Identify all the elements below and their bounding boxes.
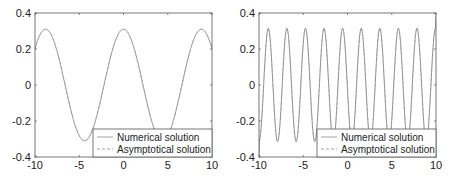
numerical-solution-line [35, 29, 212, 141]
y-tick-label: 0.2 [16, 43, 31, 55]
x-tick-label: 0 [344, 159, 350, 171]
y-tick-label: 0.4 [16, 7, 31, 19]
y-tick-label: -0.4 [236, 151, 255, 163]
y-tick-label: -0.2 [236, 115, 255, 127]
figure: -10-50510-0.4-0.200.20.4Numerical soluti… [0, 0, 455, 183]
legend-label-numerical: Numerical solution [341, 132, 423, 143]
y-tick-label: 0.4 [240, 7, 255, 19]
legend-label-asymptotical: Asymptotical solution [341, 144, 435, 155]
asymptotical-solution-line [35, 29, 212, 141]
x-tick-label: -5 [298, 159, 308, 171]
legend-label-numerical: Numerical solution [117, 132, 199, 143]
left-chart-panel: -10-50510-0.4-0.200.20.4Numerical soluti… [12, 7, 218, 171]
y-tick-label: -0.4 [12, 151, 31, 163]
x-tick-label: 5 [389, 159, 395, 171]
legend: Numerical solutionAsymptotical solution [93, 129, 212, 157]
y-tick-label: 0 [25, 79, 31, 91]
y-tick-label: -0.2 [12, 115, 31, 127]
y-tick-label: 0 [249, 79, 255, 91]
legend-label-asymptotical: Asymptotical solution [117, 144, 211, 155]
right-chart-panel: -10-50510-0.4-0.200.20.4Numerical soluti… [236, 7, 442, 171]
x-tick-label: 10 [430, 159, 442, 171]
legend: Numerical solutionAsymptotical solution [317, 129, 436, 157]
y-tick-label: 0.2 [240, 43, 255, 55]
x-tick-label: -5 [74, 159, 84, 171]
x-tick-label: 5 [165, 159, 171, 171]
x-tick-label: 0 [120, 159, 126, 171]
x-tick-label: 10 [206, 159, 218, 171]
